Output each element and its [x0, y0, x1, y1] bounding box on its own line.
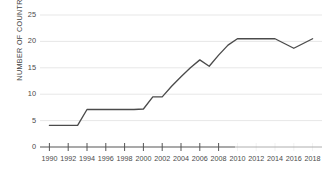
y-axis-tick-label: 10 [20, 90, 36, 97]
gridlines [40, 15, 322, 121]
y-axis-tick-label: 5 [20, 117, 36, 124]
x-axis-tick-label: 2018 [301, 155, 325, 162]
y-axis-tick-label: 25 [20, 11, 36, 18]
y-axis-tick-label: 0 [20, 143, 36, 150]
data-line-series-0 [49, 39, 312, 126]
y-axis-tick-label: 15 [20, 64, 36, 71]
y-axis-tick-label: 20 [20, 37, 36, 44]
plot-area [0, 0, 330, 177]
line-chart: NUMBER OF COUNTRIES 0510152025 199019921… [0, 0, 330, 177]
